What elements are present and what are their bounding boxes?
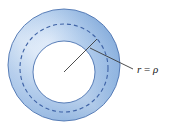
annulus-svg: r = ρ — [0, 0, 169, 131]
annulus-figure: r = ρ — [0, 0, 169, 131]
ring-fill-sheen — [8, 9, 120, 121]
radius-label: r = ρ — [137, 63, 158, 75]
radius-label-value: ρ — [152, 63, 158, 75]
ring-body — [8, 9, 120, 121]
radius-label-operator: = — [141, 63, 153, 75]
